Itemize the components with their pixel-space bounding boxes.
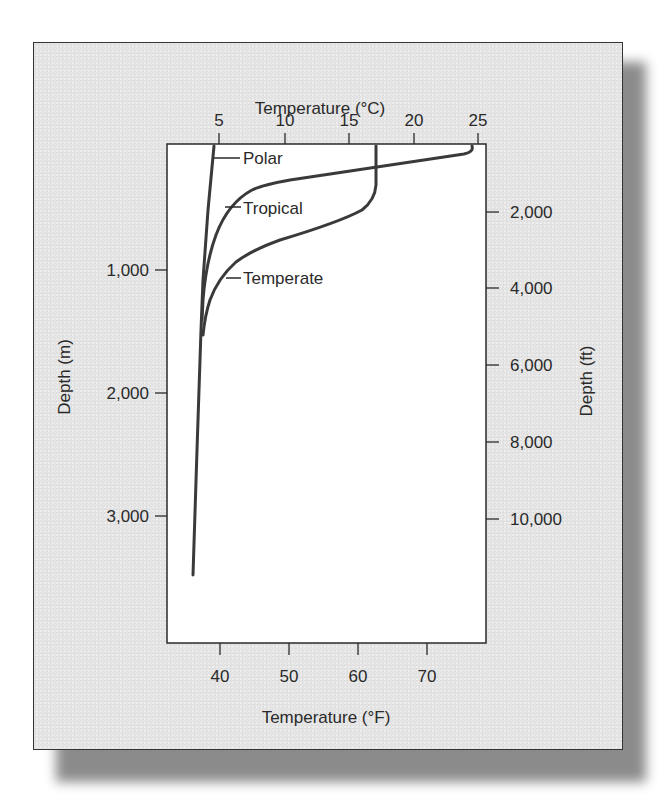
top-tick-label: 20 — [405, 111, 424, 130]
temperature-depth-chart: Temperature (°C) 5 10 15 20 25 40 50 60 … — [0, 0, 672, 805]
bottom-tick-label: 70 — [418, 667, 437, 686]
top-tick-label: 5 — [214, 111, 223, 130]
bottom-tick-label: 60 — [349, 667, 368, 686]
right-axis-ticks — [486, 212, 499, 519]
plot-area — [167, 144, 486, 643]
top-axis-ticks — [219, 133, 478, 144]
temperate-label: Temperate — [243, 269, 323, 288]
bottom-tick-label: 50 — [280, 667, 299, 686]
polar-label: Polar — [243, 149, 283, 168]
left-axis-title: Depth (m) — [55, 339, 74, 415]
top-tick-label: 25 — [469, 111, 488, 130]
right-tick-label: 10,000 — [510, 510, 562, 529]
left-axis-ticks — [155, 270, 167, 516]
left-tick-label: 2,000 — [106, 384, 149, 403]
right-tick-label: 2,000 — [510, 203, 553, 222]
right-tick-label: 4,000 — [510, 279, 553, 298]
left-tick-label: 3,000 — [106, 507, 149, 526]
bottom-axis-title: Temperature (°F) — [262, 708, 391, 727]
top-axis-title: Temperature (°C) — [255, 99, 386, 118]
right-axis-title: Depth (ft) — [577, 346, 596, 417]
right-tick-label: 6,000 — [510, 356, 553, 375]
bottom-tick-label: 40 — [211, 667, 230, 686]
top-tick-label: 10 — [276, 111, 295, 130]
right-tick-label: 8,000 — [510, 433, 553, 452]
top-tick-label: 15 — [340, 111, 359, 130]
left-tick-label: 1,000 — [106, 261, 149, 280]
bottom-axis-ticks — [220, 643, 427, 655]
tropical-label: Tropical — [243, 199, 303, 218]
